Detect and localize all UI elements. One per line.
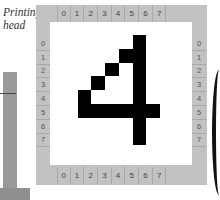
ruler-row-label: 6	[192, 120, 206, 134]
ruler-column-label: 5	[126, 167, 140, 184]
ruler-row-label: 5	[192, 106, 206, 120]
ruler-column-label: 2	[84, 5, 98, 22]
ruler-column-label: 5	[126, 5, 140, 22]
ruler-column-label: 4	[112, 5, 126, 22]
ruler-column-label: 3	[98, 167, 112, 184]
ruler-column-label: 1	[71, 167, 85, 184]
ruler-row-label: 2	[36, 65, 50, 79]
black-pixel	[146, 104, 160, 118]
ruler-row-label: 4	[36, 92, 50, 106]
ruler-column-label: 7	[153, 167, 167, 184]
black-pixel	[91, 76, 105, 90]
ruler-row-label: 0	[36, 37, 50, 51]
ruler-row-label: 7	[192, 134, 206, 148]
printing-head-marker-line	[0, 93, 16, 94]
ruler-column-label: 6	[139, 167, 153, 184]
partial-roller-edge	[212, 70, 220, 195]
ruler-row-label: 3	[36, 78, 50, 92]
printing-head-bar	[3, 72, 17, 200]
black-pixel	[133, 90, 147, 104]
ruler-row-label: 7	[36, 134, 50, 148]
black-pixel	[133, 118, 147, 132]
ruler-row-label: 4	[192, 92, 206, 106]
pixel-grid-paper	[50, 22, 192, 165]
black-pixel	[133, 132, 147, 146]
ruler-row-label: 0	[192, 37, 206, 51]
ruler-row-label: 5	[36, 106, 50, 120]
black-pixel	[133, 63, 147, 77]
ruler-column-label: 6	[139, 5, 153, 22]
ruler-row-label: 6	[36, 120, 50, 134]
ruler-column-label: 3	[98, 5, 112, 22]
black-pixel	[105, 63, 119, 77]
ruler-column-label: 1	[71, 5, 85, 22]
black-pixel	[105, 104, 119, 118]
black-pixel	[119, 104, 133, 118]
ruler-row-label: 1	[192, 51, 206, 65]
black-pixel	[119, 49, 133, 63]
ruler-column-label: 0	[57, 5, 71, 22]
black-pixel	[78, 104, 92, 118]
ruler-column-label: 2	[84, 167, 98, 184]
ruler-row-label: 2	[192, 65, 206, 79]
ruler-column-label: 0	[57, 167, 71, 184]
black-pixel	[133, 104, 147, 118]
ruler-row-label: 1	[36, 51, 50, 65]
black-pixel	[91, 104, 105, 118]
ruler-column-label: 4	[112, 167, 126, 184]
black-pixel	[133, 76, 147, 90]
ruler-row-label: 3	[192, 78, 206, 92]
ruler-column-label: 7	[153, 5, 167, 22]
black-pixel	[133, 49, 147, 63]
black-pixel	[78, 90, 92, 104]
printing-head-base	[0, 188, 30, 200]
black-pixel	[133, 35, 147, 49]
